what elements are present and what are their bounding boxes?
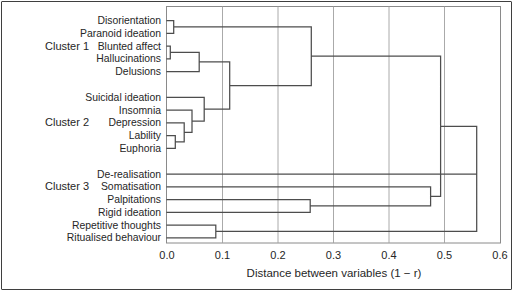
dendrogram-chart: DisorientationParanoid ideationBlunted a… <box>0 0 513 292</box>
x-tick-label: 0.5 <box>437 249 452 261</box>
gridlines <box>167 7 501 244</box>
leaf-label: Blunted affect <box>98 41 161 52</box>
leaf-label: Palpitations <box>107 194 161 205</box>
leaf-label: Depression <box>108 117 161 128</box>
leaf-label: Suicidal ideation <box>85 92 161 103</box>
leaf-label: Lability <box>129 130 162 141</box>
leaf-label: Hallucinations <box>96 53 161 64</box>
leaf-label: Repetitive thoughts <box>72 220 161 231</box>
leaf-label: Euphoria <box>119 143 161 154</box>
leaf-label: Disorientation <box>97 15 161 26</box>
dendrogram-links <box>167 21 477 238</box>
x-tick-label: 0.6 <box>492 249 507 261</box>
dendrogram-tree <box>167 21 477 238</box>
x-tick-label: 0.0 <box>159 249 174 261</box>
leaf-label: Paranoid ideation <box>80 28 161 39</box>
x-tick-label: 0.2 <box>270 249 285 261</box>
dendrogram-figure: DisorientationParanoid ideationBlunted a… <box>0 0 513 292</box>
x-tick-label: 0.1 <box>215 249 230 261</box>
leaf-label: Rigid ideation <box>98 207 161 218</box>
x-tick-label: 0.4 <box>381 249 396 261</box>
cluster-label: Cluster 3 <box>45 180 89 192</box>
labels: DisorientationParanoid ideationBlunted a… <box>45 15 508 261</box>
cluster-label: Cluster 1 <box>45 40 89 52</box>
leaf-label: Insomnia <box>119 105 161 116</box>
cluster-label: Cluster 2 <box>45 116 89 128</box>
leaf-label: Somatisation <box>101 181 161 192</box>
x-tick-label: 0.3 <box>326 249 341 261</box>
x-axis-title: Distance between variables (1 − r) <box>247 267 422 279</box>
leaf-label: Ritualised behaviour <box>67 232 162 243</box>
leaf-label: Delusions <box>115 66 161 77</box>
leaf-label: De-realisation <box>97 169 161 180</box>
